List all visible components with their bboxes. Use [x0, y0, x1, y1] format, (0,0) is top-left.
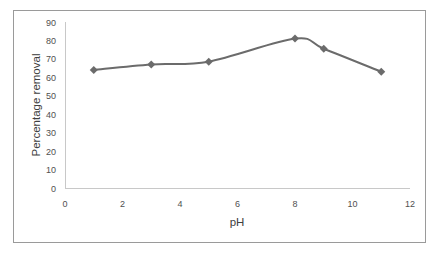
x-tick-label: 2	[120, 199, 125, 209]
chart-border	[14, 11, 426, 243]
x-tick-label: 4	[177, 199, 182, 209]
y-tick-label: 50	[46, 91, 56, 101]
x-tick-label: 10	[347, 199, 357, 209]
x-tick-label: 8	[292, 199, 297, 209]
x-axis-label: pH	[230, 216, 245, 228]
y-tick-label: 70	[46, 54, 56, 64]
y-tick-label: 20	[46, 147, 56, 157]
line-chart: 0102030405060708090024681012 Percentage …	[0, 0, 437, 256]
y-axis-label: Percentage removal	[30, 54, 42, 157]
y-tick-label: 0	[51, 184, 56, 194]
y-tick-label: 60	[46, 73, 56, 83]
y-tick-label: 80	[46, 36, 56, 46]
x-tick-label: 6	[235, 199, 240, 209]
y-tick-label: 30	[46, 128, 56, 138]
y-tick-label: 40	[46, 110, 56, 120]
y-tick-label: 10	[46, 165, 56, 175]
x-tick-label: 12	[405, 199, 415, 209]
x-tick-label: 0	[62, 199, 67, 209]
y-tick-label: 90	[46, 18, 56, 28]
